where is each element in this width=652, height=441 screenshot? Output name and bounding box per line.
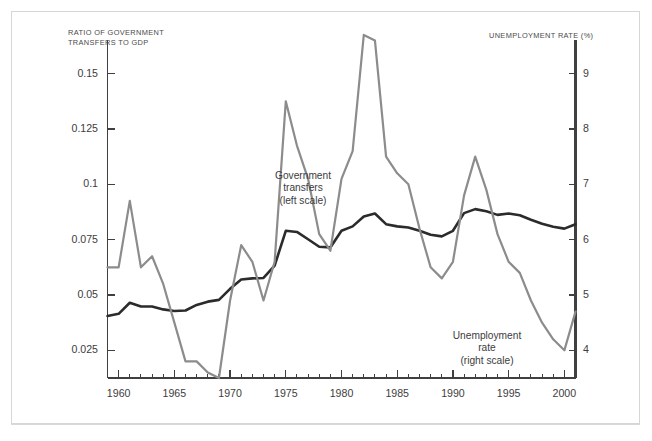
- x-tick-label-wrap: 1980: [317, 383, 367, 401]
- y-tick-label-left: 0.125: [71, 122, 98, 134]
- y-tick-label-right-wrap: 6: [583, 233, 603, 245]
- left-axis-title: RATIO OF GOVERNMENT TRANSFERS TO GDP: [68, 28, 164, 47]
- y-tick-label-left: 0.15: [77, 67, 98, 79]
- y-tick-label-left: 0.1: [83, 177, 98, 189]
- series-line-government-transfers: [108, 209, 576, 316]
- y-tick-label-right: 6: [583, 233, 589, 245]
- x-tick-label: 1995: [497, 387, 521, 399]
- y-tick-label-right: 9: [583, 67, 589, 79]
- x-tick-label: 1980: [330, 387, 354, 399]
- y-tick-label-right-wrap: 5: [583, 288, 603, 300]
- x-tick-label-wrap: 2000: [539, 383, 589, 401]
- x-tick-label: 2000: [553, 387, 577, 399]
- x-tick-label: 1975: [274, 387, 298, 399]
- x-tick-label: 1970: [218, 387, 242, 399]
- figure-page: RATIO OF GOVERNMENT TRANSFERS TO GDP UNE…: [0, 0, 652, 441]
- y-tick-label-left: 0.05: [77, 288, 98, 300]
- y-tick-label-right-wrap: 9: [583, 67, 603, 79]
- y-tick-label-right: 4: [583, 343, 589, 355]
- annotation-government-transfers: Government transfers (left scale): [248, 170, 358, 207]
- x-tick-label-wrap: 1965: [149, 383, 199, 401]
- y-tick-label-left: 0.025: [71, 343, 98, 355]
- y-tick-label-right-wrap: 8: [583, 122, 603, 134]
- y-tick-label-right-wrap: 4: [583, 343, 603, 355]
- x-tick-label-wrap: 1990: [428, 383, 478, 401]
- y-tick-label-right: 5: [583, 288, 589, 300]
- annotation-unemployment-rate: Unemployment rate (right scale): [432, 330, 542, 367]
- y-tick-label-left-wrap: 0.05: [40, 288, 98, 300]
- y-tick-label-right: 7: [583, 177, 589, 189]
- x-tick-label: 1965: [163, 387, 187, 399]
- y-tick-label-left: 0.075: [71, 233, 98, 245]
- x-tick-label: 1990: [441, 387, 465, 399]
- x-tick-label-wrap: 1985: [372, 383, 422, 401]
- x-tick-label: 1960: [107, 387, 131, 399]
- dual-axis-line-chart: RATIO OF GOVERNMENT TRANSFERS TO GDP UNE…: [0, 0, 652, 441]
- y-tick-label-right-wrap: 7: [583, 177, 603, 189]
- y-tick-label-left-wrap: 0.15: [40, 67, 98, 79]
- y-tick-label-left-wrap: 0.025: [40, 343, 98, 355]
- x-tick-label: 1985: [385, 387, 409, 399]
- y-tick-label-left-wrap: 0.075: [40, 233, 98, 245]
- y-tick-label-left-wrap: 0.125: [40, 122, 98, 134]
- y-tick-label-left-wrap: 0.1: [40, 177, 98, 189]
- x-tick-label-wrap: 1960: [94, 383, 144, 401]
- x-tick-label-wrap: 1970: [205, 383, 255, 401]
- x-tick-label-wrap: 1995: [484, 383, 534, 401]
- y-tick-label-right: 8: [583, 122, 589, 134]
- x-tick-label-wrap: 1975: [261, 383, 311, 401]
- right-axis-title: UNEMPLOYMENT RATE (%): [489, 31, 593, 41]
- axes-group: [108, 40, 576, 378]
